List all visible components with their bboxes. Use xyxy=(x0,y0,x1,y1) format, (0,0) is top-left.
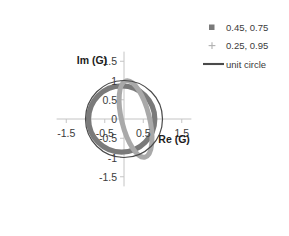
chart-svg: -1.5-0.50.51.51.510.50-0.5-1-1.5 Im (G) … xyxy=(0,0,289,236)
legend-label-2: unit circle xyxy=(226,59,266,70)
x-tick-label: -1.5 xyxy=(57,127,75,139)
y-tick-label: 0 xyxy=(111,113,117,125)
y-tick-label: -1 xyxy=(108,152,117,164)
y-tick-label: 0.5 xyxy=(102,94,117,106)
x-tick-label: 0.5 xyxy=(136,127,151,139)
square-marker-icon xyxy=(209,25,215,31)
y-tick-label: -0.5 xyxy=(99,132,117,144)
chart-container: -1.5-0.50.51.51.510.50-0.5-1-1.5 Im (G) … xyxy=(0,0,289,236)
legend-label-1: 0.25, 0.95 xyxy=(226,40,268,51)
y-tick-label: -1.5 xyxy=(99,171,117,183)
y-axis-title: Im (G) xyxy=(77,54,107,66)
x-axis-title: Re (G) xyxy=(158,133,190,145)
y-tick-label: 1 xyxy=(111,75,117,87)
legend-label-0: 0.45, 0.75 xyxy=(226,22,268,33)
chart-background xyxy=(0,0,289,236)
